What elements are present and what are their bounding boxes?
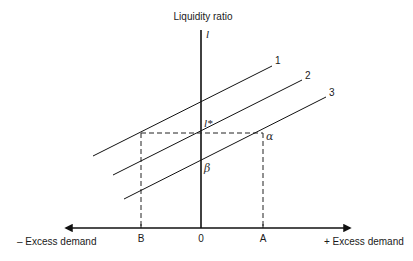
y-axis-title: Liquidity ratio <box>174 11 233 22</box>
tick-label-b: B <box>138 233 145 244</box>
line-1 <box>93 66 272 156</box>
x-axis-right-label: + Excess demand <box>324 236 404 247</box>
line-1-label: 1 <box>275 55 281 66</box>
alpha-label: α <box>266 130 274 143</box>
y-axis-symbol: l <box>206 28 209 40</box>
tick-label-origin: 0 <box>198 233 204 244</box>
line-3 <box>124 97 326 199</box>
x-axis-left-label: – Excess demand <box>17 236 97 247</box>
line-2-label: 2 <box>305 70 311 81</box>
liquidity-diagram: Liquidity ratio l 1 2 3 l* α β B 0 A – E… <box>0 0 413 261</box>
line-3-label: 3 <box>329 87 335 98</box>
tick-label-a: A <box>260 233 267 244</box>
beta-label: β <box>203 162 210 175</box>
l-star-label: l* <box>204 117 213 129</box>
